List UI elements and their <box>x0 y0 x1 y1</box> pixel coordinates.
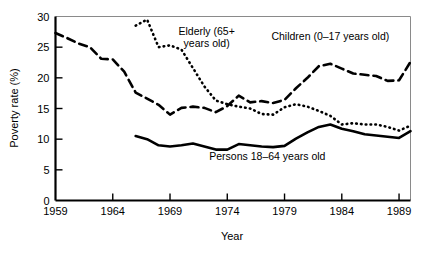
series-line-children <box>56 33 411 115</box>
y-tick-label: 30 <box>37 11 49 23</box>
x-tick-label: 1984 <box>330 205 354 217</box>
x-tick-label: 1969 <box>158 205 182 217</box>
y-tick-label: 0 <box>43 195 49 207</box>
x-axis-tick-labels: 1959196419691974197919841989 <box>43 205 411 217</box>
y-axis-tick-labels: 051015202530 <box>37 11 49 207</box>
x-tick-label: 1974 <box>215 205 239 217</box>
y-tick-label: 15 <box>37 103 49 115</box>
series-line-persons <box>136 124 411 149</box>
y-tick-label: 25 <box>37 41 49 53</box>
annotation-label-0: Elderly (65+ <box>178 25 234 37</box>
annotation-label-0-line2: years old) <box>184 37 230 49</box>
poverty-rate-chart-figure: 1959196419691974197919841989 05101520253… <box>0 0 432 257</box>
y-axis-title: Poverty rate (%) <box>8 68 20 147</box>
x-tick-label: 1979 <box>272 205 296 217</box>
plot-frame <box>56 17 411 201</box>
y-tick-label: 5 <box>43 164 49 176</box>
x-tick-label: 1964 <box>101 205 125 217</box>
x-axis-title: Year <box>221 230 244 242</box>
y-tick-label: 20 <box>37 72 49 84</box>
chart-canvas: 1959196419691974197919841989 05101520253… <box>0 0 432 257</box>
y-tick-label: 10 <box>37 133 49 145</box>
annotation-label-1: Children (0–17 years old) <box>271 30 389 42</box>
x-tick-label: 1989 <box>387 205 411 217</box>
annotation-label-2: Persons 18–64 years old <box>209 150 325 162</box>
